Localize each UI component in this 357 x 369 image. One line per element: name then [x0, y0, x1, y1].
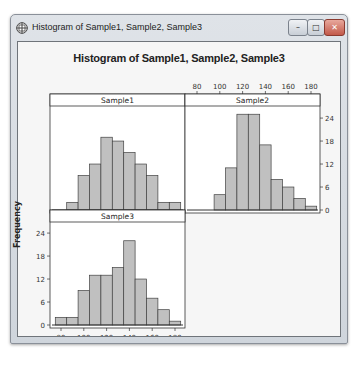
close-button[interactable]: ✕	[324, 19, 345, 36]
y-tick-label: 24	[325, 115, 334, 123]
maximize-button[interactable]: □	[307, 19, 325, 36]
histogram-bar	[78, 176, 89, 210]
x-tick-label: 140	[123, 334, 136, 336]
histogram-bar	[124, 153, 135, 210]
histogram-bar	[169, 202, 180, 210]
x-tick-label: 160	[146, 334, 159, 336]
histogram-bar	[214, 195, 225, 210]
histogram-bar	[260, 145, 271, 210]
x-tick-label: 100	[213, 83, 226, 91]
histogram-bar	[90, 275, 101, 325]
x-tick-label: 100	[77, 334, 90, 336]
histogram-bar	[135, 164, 146, 210]
histogram-bar	[78, 291, 89, 325]
y-tick-label: 12	[325, 161, 334, 169]
x-tick-label: 160	[282, 83, 295, 91]
x-tick-label: 80	[57, 334, 66, 336]
histogram-bar	[158, 310, 169, 325]
graph-area: Histogram of Sample1, Sample2, Sample3 F…	[17, 41, 341, 337]
y-tick-label: 18	[36, 253, 45, 261]
histogram-bar	[248, 114, 259, 210]
y-tick-label: 6	[41, 299, 46, 307]
window-title: Histogram of Sample1, Sample2, Sample3	[32, 22, 202, 32]
x-tick-label: 180	[304, 83, 317, 91]
close-icon: ✕	[325, 20, 344, 35]
grid-plot-icon	[16, 22, 28, 34]
histogram-bar	[135, 279, 146, 325]
histogram-bar	[124, 241, 135, 325]
title-bar[interactable]: Histogram of Sample1, Sample2, Sample3 –…	[11, 15, 347, 41]
y-tick-label: 6	[325, 184, 330, 192]
histogram-bar	[271, 179, 282, 210]
histogram-bar	[90, 164, 101, 210]
maximize-icon: □	[308, 20, 324, 35]
histogram-bar	[226, 168, 237, 210]
y-tick-label: 18	[325, 138, 334, 146]
histogram-bar	[112, 141, 123, 210]
y-tick-label: 24	[36, 230, 45, 238]
histogram-bar	[305, 206, 316, 210]
minimize-icon: –	[289, 20, 307, 35]
histogram-bar	[67, 317, 78, 325]
x-tick-label: 180	[168, 334, 181, 336]
panel-label: Sample1	[101, 96, 134, 105]
histogram-bar	[101, 275, 112, 325]
minimize-button[interactable]: –	[288, 19, 308, 36]
panel-label: Sample2	[236, 96, 269, 105]
histogram-bar	[67, 202, 78, 210]
histogram-bar	[147, 176, 158, 210]
histogram-bar	[55, 317, 66, 325]
app-window: Histogram of Sample1, Sample2, Sample3 –…	[10, 14, 348, 344]
histogram-bar	[147, 298, 158, 325]
histogram-bar	[294, 199, 305, 210]
x-tick-label: 80	[193, 83, 202, 91]
histogram-bar	[112, 268, 123, 325]
x-tick-label: 120	[236, 83, 249, 91]
histogram-bar	[101, 137, 112, 210]
panel-label: Sample3	[101, 212, 134, 221]
histogram-panels: Sample1Sample2Sample38010012014016018080…	[18, 42, 340, 336]
x-tick-label: 140	[259, 83, 272, 91]
histogram-bar	[237, 114, 248, 210]
y-tick-label: 0	[325, 207, 329, 215]
histogram-bar	[158, 202, 169, 210]
histogram-bar	[169, 321, 180, 325]
histogram-bar	[283, 187, 294, 210]
y-tick-label: 0	[41, 322, 45, 330]
y-tick-label: 12	[36, 276, 45, 284]
x-tick-label: 120	[100, 334, 113, 336]
